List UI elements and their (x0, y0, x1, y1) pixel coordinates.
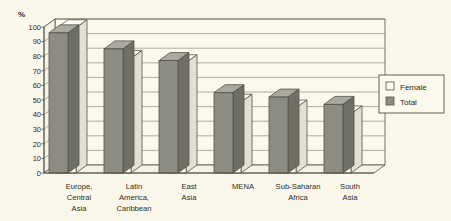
legend-box (379, 75, 444, 113)
cat-line: Latin (126, 182, 142, 191)
legend-swatch-female (386, 82, 394, 90)
bar-side-face (233, 85, 244, 173)
cat-line: South (340, 182, 360, 191)
cat-line: Africa (288, 193, 308, 202)
category-label-mena: MENA (232, 182, 255, 191)
bar-total-2 (159, 53, 189, 173)
bar-front-face (159, 61, 178, 173)
bar-total-5 (324, 96, 354, 173)
y-tick-label-20: 20 (33, 140, 41, 149)
bar-total-4 (269, 89, 299, 173)
bar-side-face (68, 25, 79, 173)
bar-front-face (324, 104, 343, 173)
bar-side-face (178, 53, 189, 173)
cat-line: MENA (232, 182, 255, 191)
y-tick-label-80: 80 (33, 52, 41, 61)
chart-svg: % 100 90 80 70 60 50 40 30 20 10 0 (0, 0, 451, 221)
cat-line: Asia (72, 204, 88, 213)
y-tick-label-70: 70 (33, 67, 41, 76)
y-tick-label-0: 0 (37, 169, 41, 178)
legend-label-female: Female (400, 83, 427, 92)
y-tick-label-50: 50 (33, 96, 41, 105)
cat-line: Central (67, 193, 92, 202)
y-tick-label-10: 10 (33, 154, 41, 163)
legend-swatch-total (386, 97, 394, 105)
bar-front-face (104, 49, 123, 173)
legend-label-total: Total (400, 98, 417, 107)
cat-line: America, (119, 193, 149, 202)
cat-line: Caribbean (116, 204, 151, 213)
bar-chart: % 100 90 80 70 60 50 40 30 20 10 0 (0, 0, 451, 221)
bar-total-3 (214, 85, 244, 173)
bar-front-face (214, 93, 233, 173)
y-tick-label-90: 90 (33, 37, 41, 46)
cat-line: Sub-Saharan (276, 182, 321, 191)
legend-item-female[interactable]: Female (386, 82, 427, 92)
y-axis-unit-label: % (18, 10, 25, 19)
cat-line: East (181, 182, 197, 191)
y-tick-label-30: 30 (33, 125, 41, 134)
cat-line: Europe, (66, 182, 93, 191)
bar-side-face (123, 41, 134, 173)
bar-total-1 (104, 41, 134, 173)
bar-side-face (288, 89, 299, 173)
legend: Female Total (379, 75, 444, 113)
y-tick-label-40: 40 (33, 110, 41, 119)
cat-line: Asia (343, 193, 359, 202)
legend-item-total[interactable]: Total (386, 97, 417, 107)
bar-front-face (269, 97, 288, 173)
bar-front-face (49, 33, 68, 173)
bar-total-0 (49, 25, 79, 173)
cat-line: Asia (182, 193, 198, 202)
bar-side-face (343, 96, 354, 173)
y-tick-label-60: 60 (33, 81, 41, 90)
y-tick-label-100: 100 (28, 23, 41, 32)
